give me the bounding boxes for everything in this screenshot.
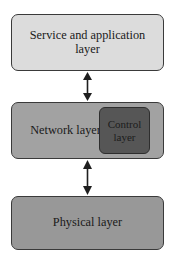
control-layer-box: Control layer xyxy=(99,107,150,154)
double-headed-vertical-arrow-icon xyxy=(81,160,94,195)
physical-layer-label: Physical layer xyxy=(53,216,122,230)
connector-network-to-physical xyxy=(81,160,94,195)
double-headed-vertical-arrow-icon xyxy=(81,72,94,101)
connector-service-to-network xyxy=(81,72,94,101)
service-and-application-layer-label: Service and application layer xyxy=(19,29,156,57)
layer-architecture-diagram: Service and application layer Network la… xyxy=(0,0,175,264)
service-and-application-layer-box: Service and application layer xyxy=(11,14,164,71)
physical-layer-box: Physical layer xyxy=(11,196,164,250)
control-layer-label: Control layer xyxy=(100,118,149,143)
